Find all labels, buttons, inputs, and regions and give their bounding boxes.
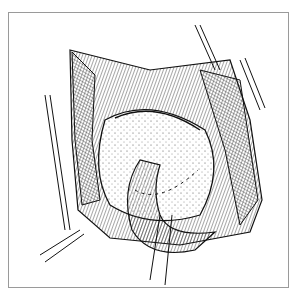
surgical-illustration (0, 0, 297, 298)
